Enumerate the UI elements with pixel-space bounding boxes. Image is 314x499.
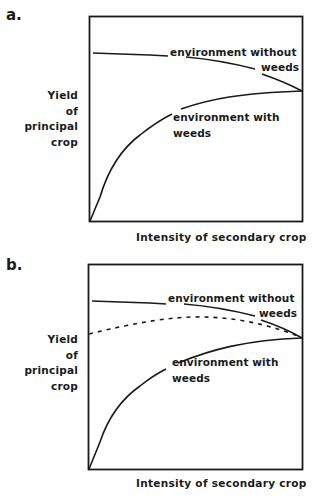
- y-label-line: of: [14, 104, 78, 120]
- y-label-line: Yield: [14, 332, 78, 348]
- curve-label-without-weeds: environment without: [170, 45, 297, 60]
- curve-label-without-weeds-2: weeds: [261, 60, 299, 75]
- y-label-line: principal: [14, 363, 78, 379]
- curve-label-with-weeds-2: weeds: [173, 126, 211, 141]
- curve-label-without-weeds-2: weeds: [259, 306, 297, 321]
- curve-label-with-weeds: environment with: [172, 355, 279, 370]
- y-label-line: Yield: [14, 88, 78, 104]
- curve-label-without-weeds: environment without: [168, 291, 295, 306]
- curve-label-with-weeds-2: weeds: [172, 371, 210, 386]
- x-axis-label: Intensity of secondary crop: [136, 477, 307, 489]
- curve-label-with-weeds: environment with: [173, 110, 280, 125]
- curve-label-line: environment without: [170, 46, 297, 58]
- y-axis-label: Yield of principal crop: [14, 88, 78, 150]
- y-axis-label: Yield of principal crop: [14, 332, 78, 394]
- panel-a: a. environment without weeds environment…: [0, 0, 314, 250]
- y-label-line: of: [14, 348, 78, 364]
- y-label-line: crop: [14, 135, 78, 151]
- y-label-line: crop: [14, 379, 78, 395]
- panel-b: b. environment without weeds environment…: [0, 248, 314, 499]
- x-axis-label: Intensity of secondary crop: [136, 231, 307, 243]
- y-label-line: principal: [14, 119, 78, 135]
